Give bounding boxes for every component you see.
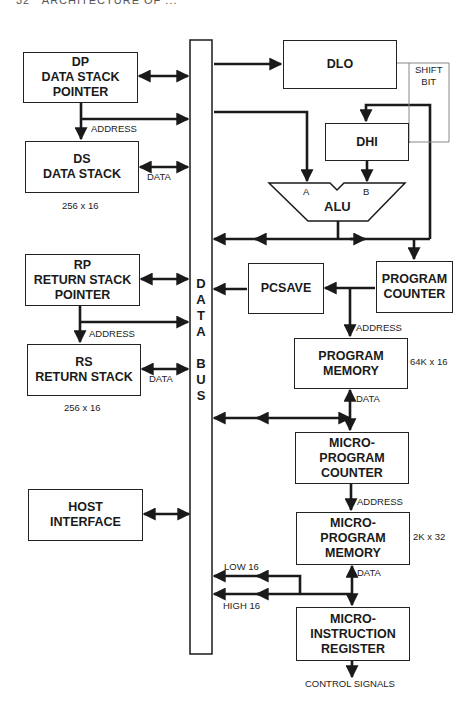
dp-data-stack-pointer: DP DATA STACK POINTER xyxy=(23,52,138,103)
block-label: DS xyxy=(73,152,90,167)
rp-address-label: ADDRESS xyxy=(89,328,135,339)
alu-input-b: B xyxy=(363,186,369,197)
ds-size: 256 x 16 xyxy=(62,200,98,211)
block-label: RETURN STACK xyxy=(34,273,132,288)
micro-program-counter: MICRO- PROGRAM COUNTER xyxy=(295,432,409,484)
block-label: COUNTER xyxy=(321,466,383,481)
alu-label: ALU xyxy=(324,199,351,214)
block-label: MEMORY xyxy=(325,546,381,561)
host-interface: HOST INTERFACE xyxy=(28,489,143,541)
block-label: INTERFACE xyxy=(50,515,121,530)
block-label: MEMORY xyxy=(323,364,379,379)
block-label: RS xyxy=(75,355,92,370)
block-label: RP xyxy=(74,258,91,273)
block-label: DLO xyxy=(327,57,353,72)
mpm-data-label: DATA xyxy=(357,567,381,578)
bus-letter: U xyxy=(192,372,210,388)
pm-data-label: DATA xyxy=(356,393,380,404)
low16-label: LOW 16 xyxy=(224,561,259,572)
bus-letter: A xyxy=(192,324,210,340)
rs-size: 256 x 16 xyxy=(64,402,100,413)
block-label: MICRO- xyxy=(329,436,375,451)
ds-data-stack: DS DATA STACK xyxy=(25,141,139,193)
dhi-register: DHI xyxy=(325,123,409,161)
block-label: REGISTER xyxy=(321,642,385,657)
block-label: DP xyxy=(72,55,89,70)
block-label: PROGRAM xyxy=(318,349,383,364)
signal-label: BIT xyxy=(421,76,436,87)
alu-input-a: A xyxy=(303,186,309,197)
dlo-register: DLO xyxy=(283,40,397,89)
mpm-size: 2K x 32 xyxy=(413,531,445,542)
data-bus-label: D A T A B U S xyxy=(192,276,210,404)
mpc-address-label: ADDRESS xyxy=(357,496,403,507)
dp-address-label: ADDRESS xyxy=(91,123,137,134)
block-label: POINTER xyxy=(53,85,109,100)
micro-instruction-register: MICRO- INSTRUCTION REGISTER xyxy=(296,607,410,661)
block-label: COUNTER xyxy=(384,287,446,302)
rp-return-stack-pointer: RP RETURN STACK POINTER xyxy=(25,254,140,306)
bus-letter: D xyxy=(192,276,210,292)
block-label: INSTRUCTION xyxy=(310,627,395,642)
bus-letter: A xyxy=(192,292,210,308)
control-signals-label: CONTROL SIGNALS xyxy=(305,678,395,689)
block-label: HOST xyxy=(68,500,103,515)
block-label: PROGRAM xyxy=(320,531,385,546)
block-label: PROGRAM xyxy=(319,451,384,466)
block-label: MICRO- xyxy=(330,612,376,627)
block-label: DATA STACK xyxy=(42,70,120,85)
pm-size: 64K x 16 xyxy=(410,356,448,367)
bus-letter: S xyxy=(192,388,210,404)
block-label: MICRO- xyxy=(330,516,376,531)
high16-label: HIGH 16 xyxy=(223,600,260,611)
bus-letter-gap xyxy=(192,340,210,356)
pcsave-register: PCSAVE xyxy=(248,263,324,314)
block-label: PCSAVE xyxy=(261,281,311,296)
program-counter: PROGRAM COUNTER xyxy=(376,261,453,313)
block-label: DHI xyxy=(356,135,378,150)
rs-return-stack: RS RETURN STACK xyxy=(27,344,141,396)
bus-letter: T xyxy=(192,308,210,324)
block-label: PROGRAM xyxy=(382,272,447,287)
signal-label: SHIFT xyxy=(415,64,442,75)
rs-data-label: DATA xyxy=(149,373,173,384)
program-memory: PROGRAM MEMORY xyxy=(294,338,408,389)
ds-data-label: DATA xyxy=(147,171,171,182)
block-label: POINTER xyxy=(55,288,111,303)
micro-program-memory: MICRO- PROGRAM MEMORY xyxy=(296,512,410,565)
shift-bit-label: SHIFT BIT xyxy=(415,64,442,88)
bus-letter: B xyxy=(192,356,210,372)
pm-address-label: ADDRESS xyxy=(356,322,402,333)
block-label: DATA STACK xyxy=(43,167,121,182)
block-label: RETURN STACK xyxy=(35,370,133,385)
